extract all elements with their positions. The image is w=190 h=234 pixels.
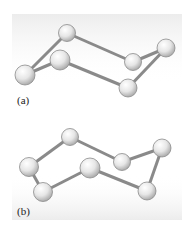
atom-ball-a5 — [157, 39, 175, 57]
molecule-diagram — [0, 0, 190, 234]
atom-ball-a4 — [125, 54, 142, 71]
atom-ball-a6 — [119, 79, 137, 97]
atom-ball-b1 — [62, 129, 79, 146]
panel-b-label: (b) — [17, 205, 30, 217]
atom-ball-a3 — [50, 50, 70, 70]
atom-ball-b5 — [114, 154, 131, 171]
atom-ball-b4 — [80, 158, 100, 178]
atom-ball-a2 — [59, 25, 76, 42]
atom-ball-b3 — [34, 183, 53, 202]
atom-ball-b6 — [153, 139, 171, 157]
atom-ball-b7 — [138, 182, 156, 200]
panel-a-label: (a) — [17, 94, 29, 106]
panel-a-background — [12, 14, 182, 84]
atom-ball-b2 — [20, 158, 39, 177]
atom-ball-a1 — [15, 65, 35, 85]
